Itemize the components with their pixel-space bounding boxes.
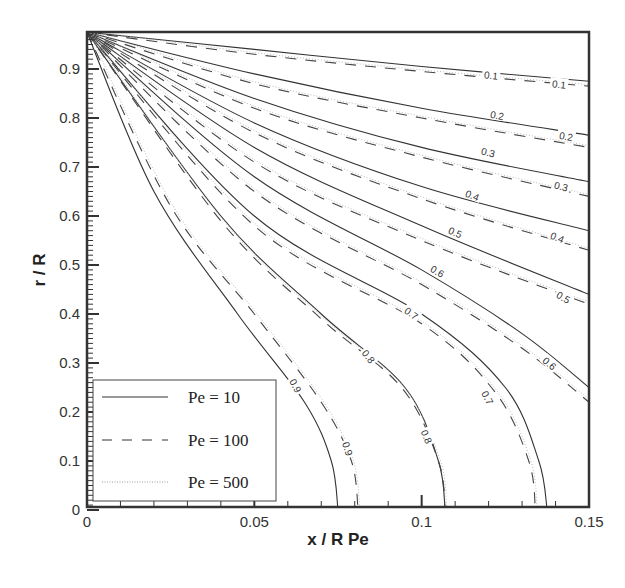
contour-dotted-0.2 [89,31,591,146]
contour-dotted-0.6 [89,31,591,401]
x-tick-label: 0.1 [411,513,432,530]
contour-solid-0.4 [87,32,589,230]
x-tick-label: 0 [83,513,91,530]
y-tick-label: 0.7 [59,158,80,175]
contour-solid-0.1 [87,32,589,81]
legend-label-pe100: Pe = 100 [188,431,249,450]
contour-dotted-0.5 [89,31,591,303]
y-tick-label: 0.6 [59,207,80,224]
contour-solid-0.5 [87,32,589,294]
y-tick-label: 0 [72,501,80,518]
legend-label-pe10: Pe = 10 [188,388,240,407]
contour-dashed-0.3 [87,32,589,196]
contour-label: 0.2 [558,130,574,143]
contour-dotted-0.3 [89,31,591,195]
legend: Pe = 10 Pe = 100 Pe = 500 [93,380,276,501]
contour-solid-0.6 [87,32,589,387]
x-tick-label: 0.15 [574,513,603,530]
legend-label-pe500: Pe = 500 [188,473,249,492]
contour-dashed-0.5 [87,32,589,304]
contour-dashed-0.6 [87,32,589,402]
y-tick-label: 0.3 [59,354,80,371]
contour-chart: 0.10.10.20.20.30.30.40.40.50.50.60.60.70… [0,0,625,588]
y-tick-label: 0.5 [59,256,80,273]
x-axis-title: x / R Pe [307,530,368,549]
x-tick-label: 0.05 [240,513,269,530]
contour-label: 0.1 [552,78,567,90]
contour-dashed-0.4 [87,32,589,250]
y-tick-label: 0.8 [59,109,80,126]
contour-dashed-0.2 [87,32,589,147]
y-tick-label: 0.1 [59,452,80,469]
contour-solid-0.3 [87,32,589,181]
y-tick-label: 0.9 [59,60,80,77]
y-tick-label: 0.4 [59,305,80,322]
y-axis-title: r / R [30,253,49,286]
y-tick-label: 0.2 [59,403,80,420]
contour-label: 0.1 [484,69,499,81]
